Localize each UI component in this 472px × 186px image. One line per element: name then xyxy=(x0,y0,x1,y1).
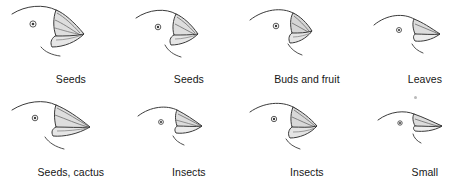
beak-illustration-small-pointed xyxy=(354,0,472,58)
beak-label-3-line1: Buds and fruit xyxy=(274,73,340,85)
beak-cell-1: Seeds xyxy=(0,0,118,93)
beak-illustration-short-stout-parrot-like xyxy=(236,0,354,58)
eye-icon xyxy=(32,115,38,121)
beak-cell-7: Insects and buds xyxy=(236,93,354,186)
beak-illustration-stout-pointed xyxy=(236,93,354,151)
beak-label-3: Buds and fruit xyxy=(250,60,339,98)
eye-icon xyxy=(273,23,279,29)
beak-label-5: Seeds, cactus flowers, and fruit xyxy=(7,153,112,186)
lower-mandible-shape xyxy=(414,126,443,131)
beak-label-4-line1: Leaves xyxy=(408,73,442,85)
lower-mandible-shape xyxy=(289,126,317,138)
beak-label-6-line1: Insects xyxy=(172,166,206,178)
lower-mandible-shape xyxy=(170,34,198,45)
beak-cell-4: Leaves xyxy=(354,0,472,93)
beak-label-2: Seeds xyxy=(150,60,204,98)
eye-icon xyxy=(271,116,276,121)
lower-mandible-shape xyxy=(289,31,312,43)
upper-mandible-shape xyxy=(54,10,84,38)
eye-icon xyxy=(30,21,36,27)
beak-illustration-long-pointed-cactus xyxy=(0,93,118,151)
upper-mandible-shape xyxy=(291,107,317,129)
beak-illustration-medium-deep-conical xyxy=(118,0,236,58)
beak-cell-6: Insects in wood xyxy=(118,93,236,186)
beak-illustration-slender-pointed-warbler xyxy=(354,93,472,151)
upper-mandible-shape xyxy=(176,110,203,128)
beak-label-5-line1: Seeds, cactus xyxy=(38,166,105,178)
lower-mandible-shape xyxy=(175,126,202,133)
upper-mandible-shape xyxy=(173,14,198,37)
eye-icon xyxy=(155,24,161,30)
beak-illustration-large-deep-conical xyxy=(0,0,118,58)
upper-mandible-shape xyxy=(413,114,442,128)
lower-mandible-shape xyxy=(52,127,90,136)
beak-label-7: Insects and buds xyxy=(261,153,328,186)
beak-grid: Seeds xyxy=(0,0,472,186)
upper-mandible-shape xyxy=(55,105,91,129)
beak-label-8-line1: Small xyxy=(412,166,439,178)
lower-mandible-shape xyxy=(414,34,441,41)
beak-cell-2: Seeds xyxy=(118,0,236,93)
beak-label-6: Insects in wood xyxy=(147,153,207,186)
beak-cell-8: Small soft insects xyxy=(354,93,472,186)
beak-label-1-line1: Seeds xyxy=(56,73,86,85)
beak-label-1: Seeds xyxy=(32,60,86,98)
beak-label-2-line1: Seeds xyxy=(174,73,204,85)
beak-label-4: Leaves xyxy=(384,60,442,98)
beak-label-8: Small soft insects xyxy=(375,153,452,186)
eye-icon xyxy=(398,121,402,125)
beak-label-7-line1: Insects xyxy=(290,166,324,178)
eye-icon xyxy=(159,120,164,125)
beak-illustration-straight-probing xyxy=(118,93,236,151)
beak-cell-5: Seeds, cactus flowers, and fruit xyxy=(0,93,118,186)
upper-mandible-shape xyxy=(413,19,440,36)
eye-icon xyxy=(397,28,402,33)
beak-cell-3: Buds and fruit xyxy=(236,0,354,93)
stray-speck xyxy=(414,96,417,99)
lower-mandible-shape xyxy=(51,34,84,47)
finch-beak-figure: Seeds xyxy=(0,0,472,186)
